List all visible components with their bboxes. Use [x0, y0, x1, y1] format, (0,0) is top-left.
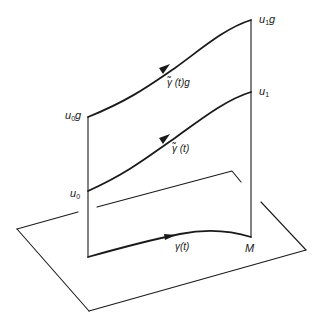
base-plane-right-edge	[261, 202, 306, 250]
base-plane-top-left-edge	[17, 212, 78, 229]
label-u1g: u1g	[259, 14, 275, 26]
label-u1: u1	[259, 86, 269, 98]
base-plane-left-edge	[17, 229, 89, 311]
label-u0: u0	[70, 188, 80, 200]
arrow-head-icon	[164, 234, 176, 240]
base-plane-bottom-edge	[89, 250, 306, 311]
label-gamma: γ(t)	[175, 242, 189, 252]
label-gamma-tilde-g: γ̃ (t)g	[167, 78, 190, 88]
label-gamma-tilde: γ̃ (t)	[172, 144, 189, 154]
fiber-bundle-diagram	[0, 0, 323, 332]
label-manifold-m: M	[245, 243, 254, 254]
label-u0g: u0g	[65, 110, 81, 122]
